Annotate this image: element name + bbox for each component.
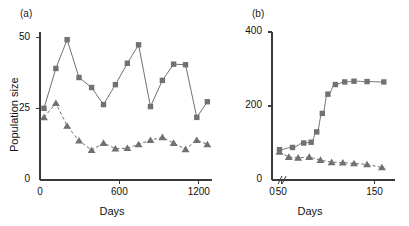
- data-point-b-triangles-3: [305, 153, 313, 160]
- plot-area-b: [0, 0, 409, 226]
- y-tick-label-b-1: 200: [245, 99, 262, 110]
- x-tick-label-b-0: 0: [269, 186, 275, 197]
- y-tick-label-b-0: 0: [256, 173, 262, 184]
- data-point-b-squares-11: [381, 79, 386, 84]
- data-point-b-squares-9: [351, 79, 356, 84]
- y-tick-label-b-2: 400: [245, 25, 262, 36]
- series-line-b-squares: [279, 81, 383, 149]
- data-point-b-squares-2: [301, 140, 306, 145]
- data-point-b-triangles-1: [285, 153, 293, 160]
- figure-container: (a)Population sizeDays0255006001200(b)Da…: [0, 0, 409, 226]
- data-point-b-squares-5: [320, 111, 325, 116]
- data-point-b-squares-10: [364, 79, 369, 84]
- data-point-b-squares-3: [308, 140, 313, 145]
- x-tick-label-b-2: 150: [366, 186, 383, 197]
- data-point-b-squares-1: [290, 145, 295, 150]
- data-point-b-squares-4: [314, 129, 319, 134]
- panel-b: (b)Days0200400050150: [0, 0, 409, 226]
- data-point-b-squares-7: [333, 82, 338, 87]
- data-point-b-squares-6: [325, 91, 330, 96]
- data-point-b-squares-8: [342, 79, 347, 84]
- x-tick-label-b-1: 50: [276, 186, 287, 197]
